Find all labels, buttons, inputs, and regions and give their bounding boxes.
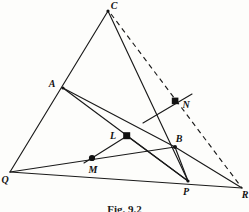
point-marker-C [106, 9, 109, 12]
point-label-R: R [241, 189, 249, 200]
point-label-A: A [48, 78, 56, 89]
solid-line-group [10, 11, 242, 188]
point-label-C: C [111, 0, 118, 11]
point-marker-A [61, 86, 64, 89]
point-label-Q: Q [1, 174, 8, 185]
point-label-M: M [88, 164, 99, 175]
point-marker-group [61, 9, 189, 182]
point-marker-M [89, 155, 95, 161]
point-label-B: B [175, 133, 183, 144]
edge-Q-R-line [10, 172, 242, 188]
segment-B-R-line [175, 147, 242, 188]
point-marker-P [186, 179, 189, 182]
point-marker-N [172, 98, 179, 105]
point-label-N: N [181, 99, 190, 110]
point-label-P: P [183, 186, 190, 197]
point-marker-B [173, 145, 177, 149]
geometry-figure: C A Q R P B L M N Fig. 9.2 [0, 0, 249, 212]
point-label-L: L [109, 130, 116, 141]
point-marker-L [123, 132, 130, 139]
edge-C-Q-line [10, 11, 108, 172]
figure-caption: Fig. 9.2 [0, 201, 249, 212]
figure-canvas: C A Q R P B L M N [0, 0, 249, 212]
